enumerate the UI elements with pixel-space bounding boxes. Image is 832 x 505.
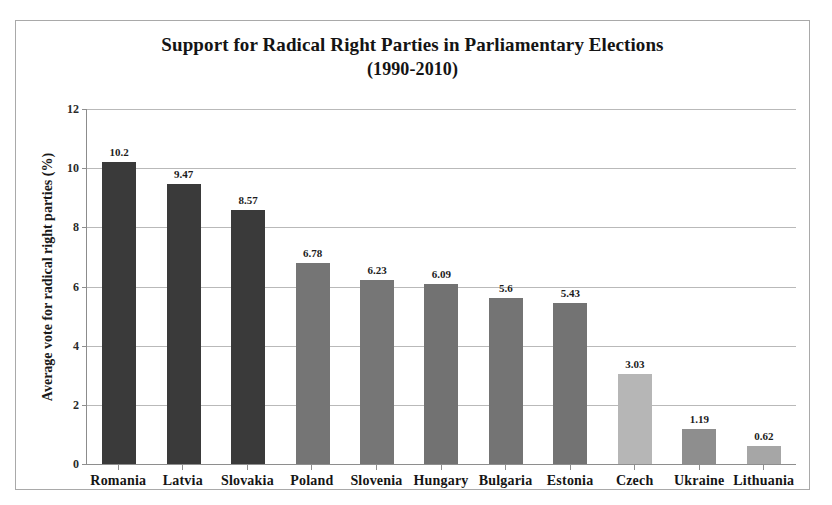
bar[interactable] <box>489 298 523 464</box>
chart-title-line-2: (1990-2010) <box>16 57 809 81</box>
x-axis-label-czech: Czech <box>602 473 667 489</box>
bar[interactable] <box>102 162 136 464</box>
bar[interactable] <box>618 374 652 464</box>
bar-group[interactable]: 5.43 <box>538 109 602 464</box>
bar[interactable] <box>231 210 265 464</box>
y-tick-label: 10 <box>67 161 79 176</box>
x-tick-mark <box>118 464 119 470</box>
x-axis-label-latvia: Latvia <box>151 473 216 489</box>
y-tick-label: 2 <box>73 397 79 412</box>
x-tick-slot <box>538 464 603 470</box>
bar-value-label: 0.62 <box>732 430 796 442</box>
x-tick-mark <box>182 464 183 470</box>
x-tick-mark <box>699 464 700 470</box>
bar-group[interactable]: 0.62 <box>732 109 796 464</box>
chart-title-line-1: Support for Radical Right Parties in Par… <box>161 34 663 55</box>
x-tick-slot <box>280 464 345 470</box>
bar-value-label: 6.23 <box>345 264 409 276</box>
x-tick-mark <box>763 464 764 470</box>
bar-group[interactable]: 10.2 <box>87 109 151 464</box>
x-axis-label-slovakia: Slovakia <box>215 473 280 489</box>
x-tick-slot <box>731 464 796 470</box>
bar-group[interactable]: 6.78 <box>280 109 344 464</box>
x-tick-slot <box>215 464 280 470</box>
bar-group[interactable]: 5.6 <box>474 109 538 464</box>
bar[interactable] <box>360 280 394 464</box>
bar-group[interactable]: 1.19 <box>667 109 731 464</box>
bar-group[interactable]: 6.23 <box>345 109 409 464</box>
x-tick-mark <box>376 464 377 470</box>
x-tick-slot <box>151 464 216 470</box>
x-tick-slot <box>602 464 667 470</box>
bars-layer: 10.29.478.576.786.236.095.65.433.031.190… <box>87 109 796 464</box>
bar-group[interactable]: 3.03 <box>603 109 667 464</box>
bar-value-label: 9.47 <box>151 168 215 180</box>
figure-frame: Support for Radical Right Parties in Par… <box>15 20 810 490</box>
bar[interactable] <box>682 429 716 464</box>
bar-value-label: 5.43 <box>538 287 602 299</box>
x-tick-mark <box>311 464 312 470</box>
bar-value-label: 3.03 <box>603 358 667 370</box>
x-axis-label-estonia: Estonia <box>538 473 603 489</box>
x-tick-slot <box>409 464 474 470</box>
y-axis-title: Average vote for radical right parties (… <box>40 127 56 427</box>
x-axis-label-romania: Romania <box>86 473 151 489</box>
bar-value-label: 10.2 <box>87 146 151 158</box>
x-tick-mark <box>441 464 442 470</box>
bar-group[interactable]: 9.47 <box>151 109 215 464</box>
x-tick-mark <box>634 464 635 470</box>
y-tick-label: 6 <box>73 279 79 294</box>
y-tick-label: 0 <box>73 457 79 472</box>
x-tick-slot <box>344 464 409 470</box>
bar-value-label: 5.6 <box>474 282 538 294</box>
x-axis-labels: RomaniaLatviaSlovakiaPolandSloveniaHunga… <box>86 473 796 489</box>
x-tick-slot <box>667 464 732 470</box>
x-axis-label-bulgaria: Bulgaria <box>473 473 538 489</box>
bar-group[interactable]: 8.57 <box>216 109 280 464</box>
x-tick-mark <box>505 464 506 470</box>
bar[interactable] <box>424 284 458 464</box>
x-tick-mark <box>247 464 248 470</box>
bar-group[interactable]: 6.09 <box>409 109 473 464</box>
bar[interactable] <box>167 184 201 464</box>
x-tick-slot <box>86 464 151 470</box>
bar-value-label: 1.19 <box>667 413 731 425</box>
plot-area: 024681012 10.29.478.576.786.236.095.65.4… <box>86 109 796 464</box>
bar[interactable] <box>553 303 587 464</box>
scan-edge <box>0 500 832 505</box>
x-axis-label-ukraine: Ukraine <box>667 473 732 489</box>
x-axis-ticks <box>86 464 796 470</box>
chart-title: Support for Radical Right Parties in Par… <box>16 33 809 81</box>
bar-value-label: 8.57 <box>216 194 280 206</box>
x-axis-label-poland: Poland <box>280 473 345 489</box>
y-tick-label: 8 <box>73 220 79 235</box>
bar[interactable] <box>747 446 781 464</box>
y-tick-label: 4 <box>73 338 79 353</box>
x-axis-label-lithuania: Lithuania <box>731 473 796 489</box>
bar-value-label: 6.09 <box>409 268 473 280</box>
x-axis-label-slovenia: Slovenia <box>344 473 409 489</box>
y-tick-label: 12 <box>67 102 79 117</box>
bar[interactable] <box>296 263 330 464</box>
x-tick-mark <box>570 464 571 470</box>
x-axis-label-hungary: Hungary <box>409 473 474 489</box>
x-tick-slot <box>473 464 538 470</box>
bar-value-label: 6.78 <box>280 247 344 259</box>
